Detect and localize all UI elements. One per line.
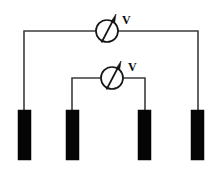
circuit-diagram: V V bbox=[0, 0, 220, 169]
outer-voltmeter-arrowhead bbox=[111, 14, 116, 23]
outer-wire-left-path bbox=[24, 31, 96, 110]
inner-voltmeter-arrowhead bbox=[116, 61, 121, 70]
outer-voltmeter bbox=[96, 14, 118, 43]
inner-wire-left-path bbox=[72, 78, 101, 110]
inner-wire-right-path bbox=[123, 78, 145, 110]
electrode-3-bar bbox=[138, 110, 151, 160]
outer-voltmeter-label: V bbox=[122, 13, 131, 27]
electrode-4-bar bbox=[191, 110, 204, 160]
inner-voltmeter bbox=[101, 61, 123, 90]
circuit-canvas: V V bbox=[0, 0, 220, 169]
electrode-1-bar bbox=[18, 110, 31, 160]
inner-voltmeter-label: V bbox=[128, 60, 137, 74]
electrode-2-bar bbox=[66, 110, 79, 160]
